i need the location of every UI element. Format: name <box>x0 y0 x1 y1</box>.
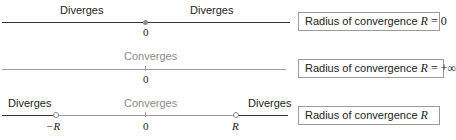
radius-text: Radius of convergence <box>305 109 421 121</box>
radius-text: Radius of convergence <box>305 62 421 74</box>
radius-var: R <box>421 108 428 122</box>
origin-tick-label: 0 <box>143 120 149 132</box>
radius-box-finite: Radius of convergence R <box>298 106 440 125</box>
radius-var: R <box>421 61 428 75</box>
open-endpoint-neg-icon <box>53 112 59 118</box>
diverges-right-label: Diverges <box>190 4 233 16</box>
converges-label: Converges <box>124 50 177 62</box>
radius-var: R <box>421 14 428 28</box>
radius-value: = +∞ <box>428 61 456 75</box>
radius-value: = 0 <box>428 14 447 28</box>
divergent-segment-right <box>236 115 288 116</box>
origin-tick-icon <box>145 66 146 71</box>
diverges-left-label: Diverges <box>8 97 51 109</box>
convergent-interval <box>56 115 236 116</box>
neg-r-tick-label: −R <box>46 120 60 132</box>
converges-label: Converges <box>124 97 177 109</box>
radius-box-infinite: Radius of convergence R = +∞ <box>298 59 444 78</box>
origin-tick-label: 0 <box>143 26 149 38</box>
diverges-left-label: Diverges <box>60 4 103 16</box>
radius-box-zero: Radius of convergence R = 0 <box>298 12 440 31</box>
diverges-right-label: Diverges <box>248 97 291 109</box>
open-endpoint-pos-icon <box>233 112 239 118</box>
pos-r-tick-label: R <box>232 120 239 132</box>
number-line <box>2 69 286 70</box>
origin-tick-label: 0 <box>143 73 149 85</box>
radius-text: Radius of convergence <box>305 15 421 27</box>
divergent-segment-left <box>2 115 56 116</box>
origin-point-icon <box>143 20 148 25</box>
origin-tick-icon <box>145 112 146 117</box>
